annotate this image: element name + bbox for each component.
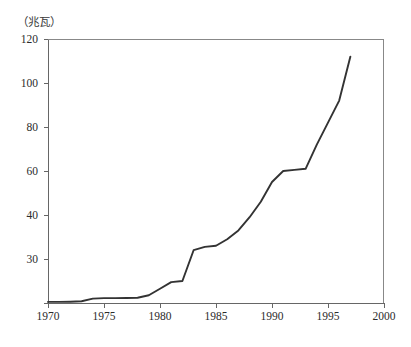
data-series-line (48, 57, 350, 302)
chart-page: （兆瓦） 30406080100120197019751980198519901… (0, 0, 411, 347)
x-tick-label: 1985 (196, 310, 236, 322)
x-tick-label: 1995 (308, 310, 348, 322)
x-tick-label: 1975 (84, 310, 124, 322)
y-tick-label: 60 (8, 165, 38, 177)
x-tick-label: 1990 (252, 310, 292, 322)
y-tick-label: 100 (8, 77, 38, 89)
y-tick-label: 120 (8, 33, 38, 45)
x-tick-label: 1980 (140, 310, 180, 322)
y-tick-label: 30 (8, 253, 38, 265)
y-axis-ticks (44, 40, 48, 304)
x-tick-label: 1970 (28, 310, 68, 322)
line-chart-plot (0, 0, 411, 347)
axis-frame (48, 39, 384, 304)
x-tick-label: 2000 (364, 310, 404, 322)
y-tick-label: 40 (8, 209, 38, 221)
y-tick-label: 80 (8, 121, 38, 133)
